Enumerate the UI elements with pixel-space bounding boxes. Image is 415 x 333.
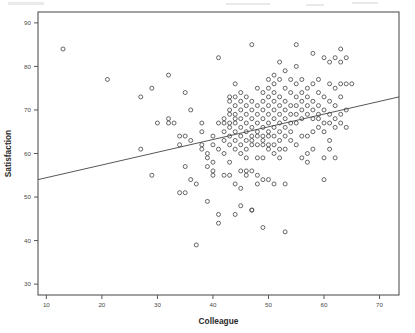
y-tick-label: 60 bbox=[24, 150, 31, 157]
x-tick-label: 50 bbox=[265, 301, 272, 308]
x-tick-label: 60 bbox=[321, 301, 328, 308]
y-tick-label: 30 bbox=[24, 280, 31, 287]
x-tick-label: 30 bbox=[154, 301, 161, 308]
y-tick-label: 80 bbox=[24, 63, 31, 70]
y-tick-label: 70 bbox=[24, 106, 31, 113]
x-tick-label: 40 bbox=[210, 301, 217, 308]
x-tick-label: 70 bbox=[376, 301, 383, 308]
y-tick-label: 40 bbox=[24, 237, 31, 244]
scatter-plot-figure: 10203040506070 30405060708090 ColleagueS… bbox=[0, 0, 415, 333]
plot-background bbox=[0, 0, 415, 333]
y-axis-title: Satisfaction bbox=[3, 130, 13, 177]
x-axis-title: Colleague bbox=[198, 316, 238, 326]
scatter-plot-canvas: 10203040506070 30405060708090 ColleagueS… bbox=[0, 0, 415, 333]
y-tick-label: 90 bbox=[24, 19, 31, 26]
x-tick-label: 20 bbox=[98, 301, 105, 308]
x-tick-label: 10 bbox=[43, 301, 50, 308]
y-tick-label: 50 bbox=[24, 193, 31, 200]
